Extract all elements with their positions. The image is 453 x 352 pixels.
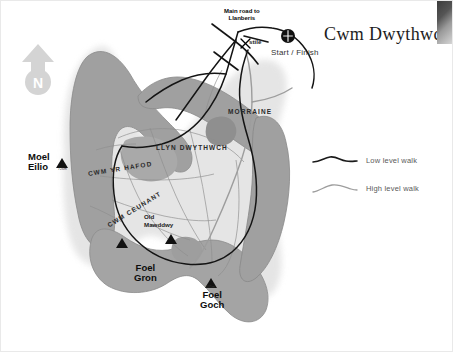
legend-label-low-level-walk: Low level walk bbox=[366, 156, 417, 165]
low-level-walk-swatch bbox=[312, 153, 358, 167]
map-slide: N Cwm Dwythwch Main road to Llanberis st… bbox=[0, 0, 453, 352]
map-legend: Low level walk High level walk bbox=[312, 146, 444, 202]
start-finish-marker-icon bbox=[280, 28, 296, 44]
high-level-walk-swatch bbox=[312, 181, 358, 195]
legend-item-low-level-walk: Low level walk bbox=[312, 146, 444, 174]
legend-label-high-level-walk: High level walk bbox=[366, 184, 419, 193]
stile-marker-icon bbox=[241, 39, 250, 48]
page-corner-fold bbox=[437, 0, 453, 44]
north-arrow-icon: N bbox=[16, 42, 60, 98]
north-arrow-label: N bbox=[33, 75, 43, 91]
page-title: Cwm Dwythwch bbox=[324, 24, 451, 45]
legend-item-high-level-walk: High level walk bbox=[312, 174, 444, 202]
